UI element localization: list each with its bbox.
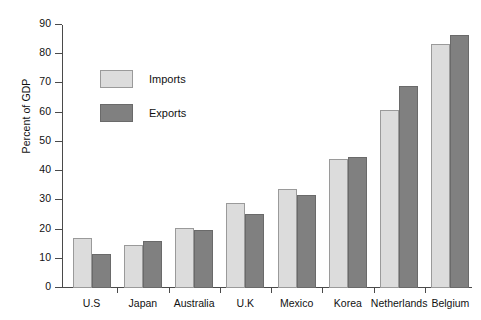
y-tick: 60 xyxy=(55,112,62,113)
y-tick: 40 xyxy=(55,170,62,171)
bar-exports-netherlands xyxy=(399,86,418,288)
bar-group: Australia xyxy=(175,25,213,288)
bar-imports-korea xyxy=(329,159,348,288)
x-tick xyxy=(271,288,272,293)
bar-imports-australia xyxy=(175,228,194,288)
x-tick xyxy=(322,288,323,293)
y-tick: 10 xyxy=(55,258,62,259)
x-axis-category-label: Netherlands xyxy=(371,288,428,309)
legend: Imports Exports xyxy=(100,68,186,136)
bar-exports-japan xyxy=(143,241,162,288)
bar-chart: Percent of GDP 0102030405060708090 U.SJa… xyxy=(0,0,481,320)
y-tick-label: 20 xyxy=(39,222,51,234)
y-tick: 0 xyxy=(55,287,62,288)
y-tick: 70 xyxy=(55,82,62,83)
y-tick-label: 80 xyxy=(39,46,51,58)
x-tick xyxy=(169,288,170,293)
y-tick: 90 xyxy=(55,24,62,25)
x-axis-category-label: Belgium xyxy=(431,288,469,309)
bar-group: Netherlands xyxy=(380,25,418,288)
bar-imports-mexico xyxy=(278,189,297,288)
bar-group: Belgium xyxy=(431,25,469,288)
y-tick: 30 xyxy=(55,199,62,200)
bar-exports-belgium xyxy=(450,35,469,288)
x-axis-category-label: U.S xyxy=(83,288,101,309)
bar-group: Mexico xyxy=(278,25,316,288)
bar-exports-uk xyxy=(245,214,264,288)
x-tick xyxy=(220,288,221,293)
x-axis-category-label: Japan xyxy=(129,288,158,309)
legend-item-exports: Exports xyxy=(100,102,186,123)
y-tick-label: 10 xyxy=(39,251,51,263)
bar-group: Japan xyxy=(124,25,162,288)
bar-imports-netherlands xyxy=(380,110,399,288)
bar-exports-mexico xyxy=(297,195,316,289)
y-tick: 20 xyxy=(55,229,62,230)
plot-area: 0102030405060708090 U.SJapanAustraliaU.K… xyxy=(62,25,472,288)
y-tick-label: 50 xyxy=(39,134,51,146)
bar-imports-us xyxy=(73,238,92,288)
y-tick: 80 xyxy=(55,53,62,54)
y-tick-label: 90 xyxy=(39,17,51,29)
x-axis-category-label: U.K xyxy=(237,288,255,309)
legend-label-exports: Exports xyxy=(149,107,186,119)
y-tick-label: 40 xyxy=(39,163,51,175)
x-axis-category-label: Mexico xyxy=(280,288,313,309)
y-tick-label: 70 xyxy=(39,75,51,87)
x-axis-category-label: Korea xyxy=(334,288,362,309)
bar-imports-japan xyxy=(124,245,143,288)
bar-imports-belgium xyxy=(431,44,450,288)
legend-swatch-exports xyxy=(100,104,133,122)
bar-group: U.S xyxy=(73,25,111,288)
bar-imports-uk xyxy=(226,203,245,288)
x-tick xyxy=(117,288,118,293)
bar-group: U.K xyxy=(226,25,264,288)
bar-exports-australia xyxy=(194,230,213,288)
bar-exports-korea xyxy=(348,157,367,289)
bar-exports-us xyxy=(92,254,111,288)
y-tick: 50 xyxy=(55,141,62,142)
y-axis-line xyxy=(62,25,63,288)
bar-group: Korea xyxy=(329,25,367,288)
y-axis-label: Percent of GDP xyxy=(20,56,32,176)
legend-swatch-imports xyxy=(100,70,133,88)
legend-label-imports: Imports xyxy=(149,73,186,85)
legend-item-imports: Imports xyxy=(100,68,186,89)
y-tick-label: 30 xyxy=(39,192,51,204)
x-axis-category-label: Australia xyxy=(174,288,215,309)
y-tick-label: 60 xyxy=(39,105,51,117)
y-tick-label: 0 xyxy=(45,280,51,292)
